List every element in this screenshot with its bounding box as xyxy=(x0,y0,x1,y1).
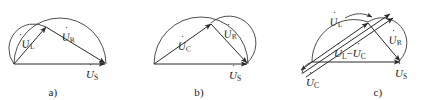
label-u-c: UC xyxy=(177,39,191,53)
panel-b: UC ̇ UR ̇ US ̇ b) xyxy=(140,0,290,100)
phasor-u-r xyxy=(46,27,105,63)
phasor-diagram-figure: UL ̇ UR ̇ US ̇ a) UC ̇ UR ̇ US xyxy=(0,0,434,100)
label-u-l-dot: ̇ xyxy=(19,34,22,36)
label-u-s-dot: ̇ xyxy=(398,63,401,65)
caption-a: a) xyxy=(0,86,123,98)
label-u-s: US xyxy=(229,69,241,83)
label-u-r: UR xyxy=(61,30,75,45)
label-u-r-dot: ̇ xyxy=(392,30,395,32)
caption-b: b) xyxy=(124,86,274,98)
label-u-l-dot: ̇ xyxy=(333,12,336,14)
label-u-c-dot: ̇ xyxy=(181,36,184,38)
phasor-u-c xyxy=(301,62,312,70)
panel-c: UL ̇ UC ̇ UL−UC ̇ ̇ UR ̇ US ̇ c) xyxy=(290,0,434,100)
label-u-s: US xyxy=(86,68,98,82)
label-u-l: UL xyxy=(329,15,343,30)
u-l-leader-line xyxy=(345,14,372,18)
panel-a: UL ̇ UR ̇ US ̇ a) xyxy=(0,0,140,100)
panel-b-drawing: UC ̇ UR ̇ US ̇ xyxy=(140,0,290,100)
panel-a-drawing: UL ̇ UR ̇ US ̇ xyxy=(0,0,140,100)
label-u-l: UL xyxy=(21,36,36,51)
label-u-r: UR xyxy=(388,33,402,48)
label-u-l-minus-u-c: UL−UC xyxy=(334,47,366,61)
caption-c: c) xyxy=(306,86,434,98)
label-u-s: US xyxy=(395,67,407,81)
label-u-l-minus-u-c-dot-2: ̇ xyxy=(357,43,360,45)
label-u-s-dot: ̇ xyxy=(232,65,235,67)
label-u-r: UR xyxy=(223,27,237,42)
label-u-r-dot: ̇ xyxy=(65,27,68,29)
panel-c-drawing: UL ̇ UC ̇ UL−UC ̇ ̇ UR ̇ US ̇ xyxy=(290,0,434,100)
